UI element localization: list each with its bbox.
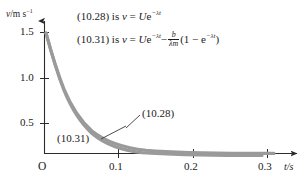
equation-10-28-exponent: −λt (151, 9, 160, 16)
equation-10-31-lhs: v (122, 33, 127, 45)
equation-10-31-fraction-numerator: b (168, 31, 179, 39)
equation-10-31-paren-open: (1 − e (180, 33, 206, 45)
equation-10-31-ref: (10.31) (77, 33, 109, 45)
x-tick-label-0p1: 0.1 (109, 161, 123, 172)
equation-10-31-paren-exponent: −λt (206, 32, 215, 39)
x-tick-label-0p2: 0.2 (184, 161, 198, 172)
x-axis-title-unit: /s (287, 161, 294, 172)
equation-10-28-equals: = (130, 10, 136, 22)
y-tick-label-1p5: 1.5 (20, 26, 34, 37)
figure-container: v/m s−1 1.5 1.0 0.5 O 0.1 0.2 0.3 t/s (1… (0, 0, 306, 188)
equation-10-31-equals: = (130, 33, 136, 45)
x-axis-title: t/s (284, 162, 293, 172)
equation-10-28-is: is (112, 10, 119, 22)
equation-10-31-minus: − (161, 33, 167, 45)
leader-line-10-31 (101, 126, 126, 139)
x-tick-label-0p3: 0.3 (258, 161, 272, 172)
curve-label-10-28: (10.28) (142, 108, 174, 119)
equation-10-28-ref: (10.28) (77, 10, 109, 22)
equation-10-31-paren-close: ) (215, 33, 219, 45)
equation-10-28-lhs: v (122, 10, 127, 22)
curve-label-10-31: (10.31) (57, 133, 89, 144)
equation-10-31-exponent: −λt (151, 32, 160, 39)
y-tick-label-1p0: 1.0 (20, 72, 34, 83)
leader-line-10-28 (126, 115, 140, 128)
y-axis-title: v/m s−1 (6, 10, 33, 20)
origin-label: O (38, 161, 46, 173)
equation-10-31-fraction: bλm (168, 31, 179, 48)
y-axis-title-unit: /m s (10, 9, 26, 19)
y-axis-title-exponent: −1 (26, 8, 32, 14)
equation-10-28: (10.28) is v = Ue−λt (77, 11, 161, 22)
y-tick-label-0p5: 0.5 (20, 117, 34, 128)
equation-10-31: (10.31) is v = Ue−λt−bλm(1 − e−λt) (77, 31, 219, 48)
equation-10-31-is: is (112, 33, 119, 45)
equation-10-31-fraction-denominator: λm (168, 39, 179, 48)
